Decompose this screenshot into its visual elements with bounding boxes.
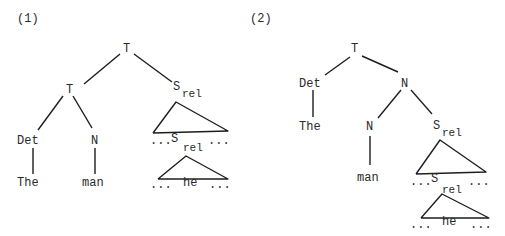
edge-root-to-n (362, 56, 398, 72)
dots-left: ... (150, 134, 172, 148)
tree-2-label: (2) (250, 12, 272, 26)
node-n: N (91, 134, 98, 148)
node-embedded-srel-subscript: rel (183, 142, 203, 154)
leaf-the: The (17, 176, 39, 190)
node-embedded-srel: S (431, 172, 438, 186)
node-det: Det (17, 134, 39, 148)
leaf-man: man (357, 171, 379, 185)
edge-root-to-srel (134, 54, 172, 82)
edge-t-to-n (73, 96, 92, 128)
dots-right: ... (468, 175, 490, 189)
leaf-he: he (183, 176, 197, 190)
tree-2: (2) T Det N The N S rel man ... S rel ..… (250, 12, 492, 232)
node-root-t: T (123, 42, 130, 56)
dots-right: ... (208, 134, 230, 148)
dots-bottom-right: ... (209, 178, 231, 192)
dots-bottom-left: ... (150, 178, 172, 192)
node-n-child: N (366, 120, 373, 134)
tree-1-label: (1) (17, 12, 39, 26)
tree-1: (1) T T S rel Det N The man ... S rel ..… (17, 12, 231, 192)
edge-t-to-det (38, 96, 63, 130)
edge-root-to-t (84, 54, 120, 84)
leaf-he: he (442, 215, 456, 229)
dots-bottom-left: ... (410, 218, 432, 232)
dots-bottom-right: ... (470, 218, 492, 232)
node-srel-subscript: rel (442, 127, 462, 139)
leaf-the: The (299, 120, 321, 134)
node-embedded-srel: S (171, 132, 178, 146)
node-det: Det (299, 77, 321, 91)
dots-left: ... (410, 175, 432, 189)
triangle-srel-subtree (153, 102, 228, 133)
node-n: N (401, 77, 408, 91)
node-root-t: T (351, 42, 358, 56)
syntax-tree-diagram: (1) T T S rel Det N The man ... S rel ..… (0, 0, 505, 236)
edge-root-to-det (325, 57, 350, 75)
node-srel: S (173, 80, 180, 94)
node-embedded-srel-subscript: rel (442, 184, 462, 196)
node-srel: S (433, 119, 440, 133)
edge-n-to-srel (411, 90, 432, 114)
node-t: T (66, 83, 73, 97)
leaf-man: man (82, 176, 104, 190)
node-srel-subscript: rel (182, 88, 202, 100)
edge-n-to-n-child (378, 90, 401, 118)
triangle-srel-subtree (416, 140, 486, 174)
